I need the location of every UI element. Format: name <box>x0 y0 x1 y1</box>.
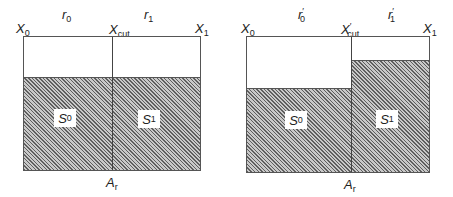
label-s1: S1 <box>376 110 398 128</box>
cut-line <box>351 37 352 172</box>
partition-box <box>246 36 430 173</box>
label-r0-prime: r′0 <box>298 7 305 24</box>
right-partition-diagram: r′0 r′1 X0 X′cut X1 S0 S1 Ar <box>0 0 453 197</box>
region-s0-fill <box>247 88 351 172</box>
label-ar: Ar <box>344 178 356 194</box>
label-s0: S0 <box>285 111 307 129</box>
label-r1-prime: r′1 <box>388 7 395 24</box>
